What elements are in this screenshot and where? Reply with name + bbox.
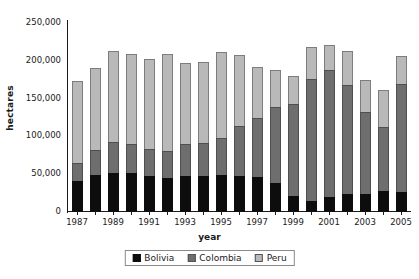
bar-segment-colombia — [342, 85, 353, 194]
y-axis-tick-label: 0 — [0, 206, 68, 216]
bar-segment-bolivia — [180, 176, 191, 212]
bar-segment-colombia — [216, 138, 227, 176]
x-axis-tick-mark — [203, 211, 204, 215]
bar-segment-bolivia — [144, 176, 155, 212]
bar-segment-bolivia — [162, 178, 173, 212]
x-axis-tick-mark — [293, 211, 294, 215]
bar-1989 — [108, 51, 119, 211]
x-axis-tick-label: 2003 — [354, 217, 376, 227]
bar-segment-peru — [180, 63, 191, 145]
x-axis-tick-mark — [275, 211, 276, 215]
x-axis-title: year — [0, 232, 419, 242]
bar-segment-colombia — [162, 151, 173, 179]
bar-segment-bolivia — [198, 176, 209, 212]
y-axis-title: hectares — [2, 0, 18, 215]
bar-1999 — [288, 76, 299, 211]
bar-segment-colombia — [252, 118, 263, 178]
bar-segment-peru — [342, 51, 353, 86]
x-axis-tick-mark — [131, 211, 132, 215]
x-axis-tick-label: 2001 — [318, 217, 340, 227]
x-axis-tick-mark — [257, 211, 258, 215]
bar-1996 — [234, 55, 245, 211]
bar-1988 — [90, 68, 101, 211]
x-axis-tick-mark — [239, 211, 240, 215]
legend-label: Peru — [267, 253, 287, 263]
x-axis-tick-mark — [347, 211, 348, 215]
bar-2003 — [360, 80, 371, 211]
bar-segment-bolivia — [126, 173, 137, 212]
legend-label: Colombia — [199, 253, 241, 263]
bar-segment-colombia — [396, 84, 407, 193]
legend-swatch-peru-icon — [255, 254, 263, 262]
bar-segment-colombia — [378, 127, 389, 192]
x-axis-tick-mark — [311, 211, 312, 215]
bar-2005 — [396, 56, 407, 211]
bar-2004 — [378, 90, 389, 211]
x-axis-tick-mark — [167, 211, 168, 215]
bar-segment-colombia — [288, 104, 299, 197]
bar-1998 — [270, 70, 281, 211]
chart-legend: BoliviaColombiaPeru — [124, 250, 294, 266]
plot-area: 050,000100,000150,000200,000250,000 — [68, 22, 410, 211]
bar-segment-colombia — [360, 112, 371, 195]
y-axis-tick-label: 200,000 — [0, 55, 68, 65]
bar-segment-peru — [378, 90, 389, 128]
bar-segment-bolivia — [108, 173, 119, 212]
x-axis-tick-mark — [221, 211, 222, 215]
x-axis-tick-mark — [329, 211, 330, 215]
bar-segment-colombia — [90, 150, 101, 176]
y-axis-tick-label: 150,000 — [0, 93, 68, 103]
stacked-bar-chart: hectares 050,000100,000150,000200,000250… — [0, 0, 419, 279]
bar-segment-colombia — [234, 126, 245, 177]
bar-segment-bolivia — [234, 176, 245, 212]
bar-segment-colombia — [324, 70, 335, 198]
y-axis-tick-label: 100,000 — [0, 130, 68, 140]
bar-segment-peru — [108, 51, 119, 142]
x-axis-tick-label: 1997 — [246, 217, 268, 227]
x-axis-tick-label: 1995 — [210, 217, 232, 227]
bar-1994 — [198, 62, 209, 211]
legend-item-colombia: Colombia — [187, 253, 241, 263]
bar-segment-bolivia — [216, 175, 227, 212]
bar-segment-peru — [360, 80, 371, 113]
x-axis-tick-mark — [383, 211, 384, 215]
bar-segment-bolivia — [324, 197, 335, 212]
bar-segment-peru — [144, 59, 155, 150]
bar-segment-colombia — [108, 142, 119, 174]
bar-2002 — [342, 51, 353, 211]
x-axis-tick-mark — [149, 211, 150, 215]
x-axis-tick-label: 1989 — [102, 217, 124, 227]
bar-segment-peru — [162, 54, 173, 152]
x-axis-tick-mark — [401, 211, 402, 215]
x-axis-tick-label: 1991 — [138, 217, 160, 227]
bar-segment-bolivia — [378, 191, 389, 212]
bar-segment-colombia — [180, 144, 191, 178]
bar-segment-peru — [90, 68, 101, 152]
bar-segment-bolivia — [396, 192, 407, 212]
bar-segment-bolivia — [90, 175, 101, 212]
bar-segment-peru — [270, 70, 281, 109]
bar-1992 — [162, 54, 173, 211]
legend-item-peru: Peru — [255, 253, 287, 263]
bar-segment-bolivia — [360, 194, 371, 212]
x-axis-tick-label: 1999 — [282, 217, 304, 227]
bar-segment-colombia — [198, 143, 209, 177]
bar-1991 — [144, 59, 155, 211]
bar-segment-bolivia — [342, 194, 353, 212]
bar-segment-peru — [198, 62, 209, 144]
bar-segment-colombia — [270, 107, 281, 184]
legend-label: Bolivia — [144, 253, 174, 263]
bar-segment-bolivia — [288, 196, 299, 212]
bar-segment-bolivia — [252, 177, 263, 212]
x-axis-tick-label: 1987 — [66, 217, 88, 227]
bar-1995 — [216, 52, 227, 211]
x-axis-tick-label: 2005 — [390, 217, 412, 227]
bar-1987 — [72, 81, 83, 211]
bar-1997 — [252, 67, 263, 211]
bar-segment-colombia — [144, 149, 155, 177]
bar-segment-colombia — [72, 163, 83, 182]
bar-segment-colombia — [306, 79, 317, 202]
bar-segment-peru — [234, 55, 245, 126]
bar-segment-peru — [72, 81, 83, 164]
x-axis-tick-mark — [185, 211, 186, 215]
